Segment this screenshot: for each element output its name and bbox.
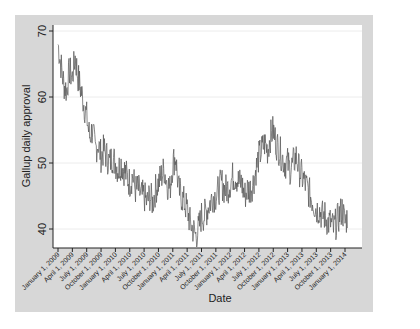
y-tick-label: 40 <box>36 223 48 235</box>
chart-svg: 40506070 January 1, 2009April 1, 2009Jul… <box>0 0 420 329</box>
y-tick-label: 60 <box>36 91 48 103</box>
y-axis-title: Gallup daily approval <box>20 85 32 188</box>
y-tick-label: 50 <box>36 157 48 169</box>
x-axis-title: Date <box>208 292 231 304</box>
y-axis-ticks: 40506070 <box>36 25 53 235</box>
x-axis-ticks: January 1, 2009April 1, 2009July 1, 2009… <box>20 248 348 292</box>
y-tick-label: 70 <box>36 25 48 37</box>
